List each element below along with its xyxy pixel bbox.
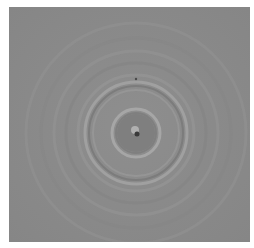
microscopy-image: [9, 7, 250, 242]
center-particle: [135, 132, 140, 137]
interference-rings: [9, 7, 250, 242]
speck: [135, 78, 137, 80]
